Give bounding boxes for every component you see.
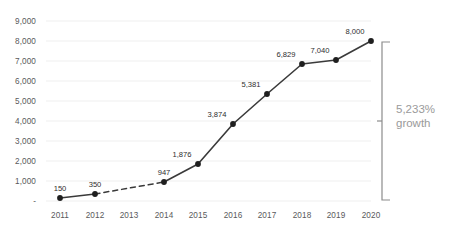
data-label-2020: 8,000 [335,27,375,36]
ytick-label-5000: 5,000 [2,97,36,106]
xtick-label-2018: 2018 [285,211,319,220]
xtick-label-2014: 2014 [147,211,181,220]
data-point-2017 [264,91,270,97]
data-point-2018 [299,61,305,67]
data-point-2015 [195,161,201,167]
xtick-label-2011: 2011 [43,211,77,220]
data-label-2011: 150 [40,184,80,193]
data-point-2011 [57,195,63,201]
data-label-2017: 5,381 [231,80,271,89]
data-label-2014: 947 [144,168,184,177]
growth-annotation-percent: 5,233% [396,103,456,117]
data-label-2016: 3,874 [197,110,237,119]
data-point-2014 [161,179,167,185]
data-line-solid-early [60,194,95,198]
data-point-2012 [92,191,98,197]
xtick-label-2016: 2016 [216,211,250,220]
ytick-label-zero: - [2,197,36,206]
ytick-label-8000: 8,000 [2,37,36,46]
growth-annotation: 5,233% growth [396,103,456,130]
ytick-label-1000: 1,000 [2,177,36,186]
data-label-2012: 350 [75,180,115,189]
xtick-label-2015: 2015 [181,211,215,220]
data-markers [57,38,374,201]
xtick-label-2020: 2020 [354,211,388,220]
ytick-label-2000: 2,000 [2,157,36,166]
xtick-label-2013: 2013 [112,211,146,220]
data-label-2015: 1,876 [162,150,202,159]
xtick-label-2012: 2012 [78,211,112,220]
line-chart: 9,000 8,000 7,000 6,000 5,000 4,000 3,00… [0,0,456,237]
data-point-2016 [230,121,236,127]
xtick-label-2019: 2019 [319,211,353,220]
data-label-2019: 7,040 [300,46,340,55]
xtick-label-2017: 2017 [250,211,284,220]
ytick-label-6000: 6,000 [2,77,36,86]
data-point-2020 [368,38,374,44]
ytick-label-3000: 3,000 [2,137,36,146]
growth-annotation-word: growth [396,117,456,131]
ytick-label-7000: 7,000 [2,57,36,66]
growth-bracket-icon [377,42,390,200]
ytick-label-9000: 9,000 [2,17,36,26]
data-point-2019 [333,57,339,63]
ytick-label-4000: 4,000 [2,117,36,126]
